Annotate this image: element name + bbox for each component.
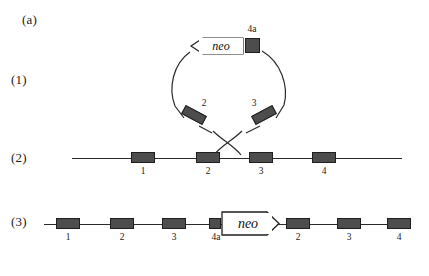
targeted-exon-label-3-right: 3 — [339, 232, 359, 242]
targeted-exon-label-4: 4 — [389, 232, 409, 242]
targeted-exon-label-2-right: 2 — [288, 232, 308, 242]
targeted-exon-4 — [387, 218, 411, 229]
targeted-exon-2-right — [286, 218, 310, 229]
targeted-neo-label: neo — [224, 213, 272, 234]
targeted-exon-3-right — [337, 218, 361, 229]
figure-canvas: (a) (1) (2) (3) neo 4a 2 3 1 2 3 4 1 — [0, 0, 429, 276]
targeted-neo-cassette-svg — [0, 0, 429, 276]
